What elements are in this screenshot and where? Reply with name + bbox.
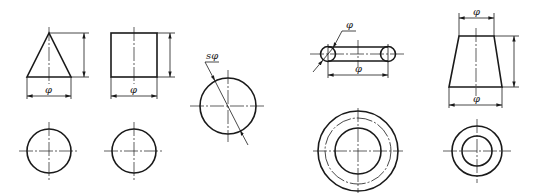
cone-top-view bbox=[19, 122, 79, 181]
torus-leader-arrow-bottom bbox=[313, 60, 323, 72]
sphere-view: sφ bbox=[190, 50, 266, 145]
drawing-canvas: φ φ sφ bbox=[0, 0, 540, 196]
torus-top-view bbox=[313, 108, 403, 193]
sphere-dia-label: sφ bbox=[206, 50, 218, 61]
sphere-leader-arrow-bottom bbox=[240, 130, 248, 145]
cylinder-top-view bbox=[104, 122, 164, 181]
cone-dia-label: φ bbox=[45, 84, 52, 95]
sphere-leader-arrow-top bbox=[205, 62, 215, 81]
torus-front-view: φ φ bbox=[310, 19, 406, 78]
frustum-front-view: φ φ bbox=[449, 6, 519, 108]
cylinder-dia-label: φ bbox=[130, 84, 137, 95]
frustum-outline bbox=[449, 36, 502, 87]
frustum-top-dia-label: φ bbox=[473, 6, 480, 17]
sphere-dia-line bbox=[215, 81, 240, 130]
torus-center-dia-label: φ bbox=[355, 63, 362, 74]
cylinder-front-view: φ bbox=[111, 27, 175, 99]
torus-leader-arrow-top bbox=[333, 31, 342, 48]
cone-front-view: φ bbox=[27, 27, 89, 99]
frustum-top-view bbox=[443, 119, 511, 183]
frustum-bottom-dia-label: φ bbox=[473, 93, 480, 104]
torus-tube-dia-label: φ bbox=[346, 19, 353, 30]
